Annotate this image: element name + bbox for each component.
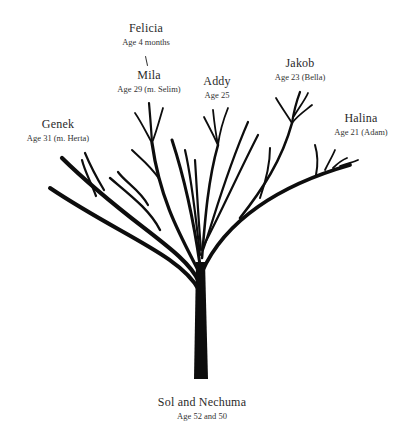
node-age: Age 31 (m. Herta) <box>27 134 89 143</box>
node-mila: Mila Age 29 (m. Selim) <box>117 69 180 94</box>
node-name: Halina <box>334 112 387 124</box>
branch-left-upper <box>62 158 199 282</box>
node-age: Age 29 (m. Selim) <box>117 85 180 94</box>
node-age: Age 52 and 50 <box>158 412 246 421</box>
branch-right <box>202 165 350 272</box>
node-root: Sol and Nechuma Age 52 and 50 <box>158 396 246 421</box>
node-halina: Halina Age 21 (Adam) <box>334 112 387 137</box>
node-name: Jakob <box>275 57 326 69</box>
family-tree-graphic <box>0 0 407 423</box>
node-age: Age 21 (Adam) <box>334 128 387 137</box>
node-name: Mila <box>117 69 180 81</box>
branch-halina <box>315 145 317 175</box>
node-age: Age 4 months <box>122 38 170 47</box>
node-age: Age 23 (Bella) <box>275 73 326 82</box>
node-name: Addy <box>203 75 230 87</box>
node-age: Age 25 <box>203 91 230 100</box>
node-name: Sol and Nechuma <box>158 396 246 408</box>
node-name: Felicia <box>122 22 170 34</box>
node-addy: Addy Age 25 <box>203 75 230 100</box>
node-genek: Genek Age 31 (m. Herta) <box>27 118 89 143</box>
branch-genek <box>50 188 199 290</box>
node-name: Genek <box>27 118 89 130</box>
node-jakob: Jakob Age 23 (Bella) <box>275 57 326 82</box>
node-felicia: Felicia Age 4 months <box>122 22 170 47</box>
